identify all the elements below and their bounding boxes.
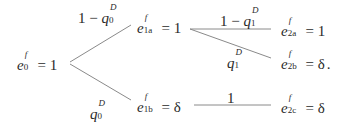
superscript: f — [289, 93, 292, 102]
label-var: q — [227, 55, 235, 71]
node-value: δ — [174, 99, 181, 115]
node-indices: f0 — [24, 55, 34, 70]
subscript: 0 — [109, 16, 114, 25]
superscript: f — [289, 16, 292, 25]
label-prefix: 1 − — [78, 10, 101, 26]
superscript: D — [110, 3, 117, 12]
label-prefix: 1 — [227, 90, 235, 106]
node-2c: ef2c = δ — [281, 98, 325, 116]
label-indices: D0 — [109, 8, 119, 23]
node-indices: f1a — [144, 18, 158, 33]
superscript: f — [289, 49, 292, 58]
label-indices: D0 — [98, 104, 108, 119]
node-value: 1 — [174, 20, 182, 36]
equals-sign: = — [305, 100, 313, 116]
node-1b: ef1b = δ — [137, 97, 181, 115]
node-indices: f2c — [288, 98, 302, 113]
equals-sign: = — [305, 23, 313, 39]
node-value: 1 — [318, 23, 326, 39]
subscript: 2b — [288, 62, 297, 71]
trailing-period: . — [327, 56, 331, 72]
subscript: 2c — [288, 106, 297, 115]
node-var: e — [281, 23, 288, 39]
subscript: 0 — [24, 63, 29, 72]
node-var: e — [281, 56, 288, 72]
superscript: D — [252, 6, 259, 15]
label-var: q — [243, 13, 251, 29]
equals-sign: = — [305, 56, 313, 72]
subscript: 1a — [144, 26, 153, 35]
subscript: 1 — [235, 61, 240, 70]
node-indices: f2b — [288, 54, 302, 69]
superscript: f — [145, 13, 148, 22]
label-var: q — [101, 10, 109, 26]
node-root: ef0 = 1 — [17, 55, 57, 73]
subscript: 1b — [144, 105, 153, 114]
edge-label-1b-2c: 1 — [227, 91, 235, 106]
superscript: D — [99, 99, 106, 108]
edge-label-1a-2a: 1 − qD1 — [220, 11, 261, 29]
node-2b: ef2b = δ. — [281, 54, 330, 72]
label-var: q — [90, 106, 98, 122]
node-value: δ — [318, 100, 325, 116]
node-value: 1 — [50, 57, 58, 73]
subscript: 1 — [251, 19, 256, 28]
edge-root-to-1b — [70, 64, 131, 100]
equals-sign: = — [37, 57, 45, 73]
equals-sign: = — [161, 20, 169, 36]
superscript: f — [145, 92, 148, 101]
superscript: D — [236, 48, 243, 57]
node-indices: f2a — [288, 21, 302, 36]
node-2a: ef2a = 1 — [281, 21, 325, 39]
subscript: 0 — [98, 112, 103, 121]
node-var: e — [281, 100, 288, 116]
edge-label-1a-2b: qD1 — [227, 53, 245, 71]
edge-label-root-1b: qD0 — [90, 104, 108, 122]
equals-sign: = — [161, 99, 169, 115]
node-var: e — [137, 20, 144, 36]
edge-root-to-1a — [70, 25, 131, 62]
node-var: e — [17, 57, 24, 73]
node-indices: f1b — [144, 97, 158, 112]
node-var: e — [137, 99, 144, 115]
node-1a: ef1a = 1 — [137, 18, 181, 36]
superscript: f — [25, 50, 28, 59]
edge-label-root-1a: 1 − qD0 — [78, 8, 119, 26]
label-indices: D1 — [235, 53, 245, 68]
label-indices: D1 — [251, 11, 261, 26]
subscript: 2a — [288, 29, 297, 38]
probability-tree-diagram: ef0 = 1 ef1a = 1 ef1b = δ ef2a = 1 ef2b … — [0, 0, 343, 127]
label-prefix: 1 − — [220, 13, 243, 29]
node-value: δ — [318, 56, 325, 72]
